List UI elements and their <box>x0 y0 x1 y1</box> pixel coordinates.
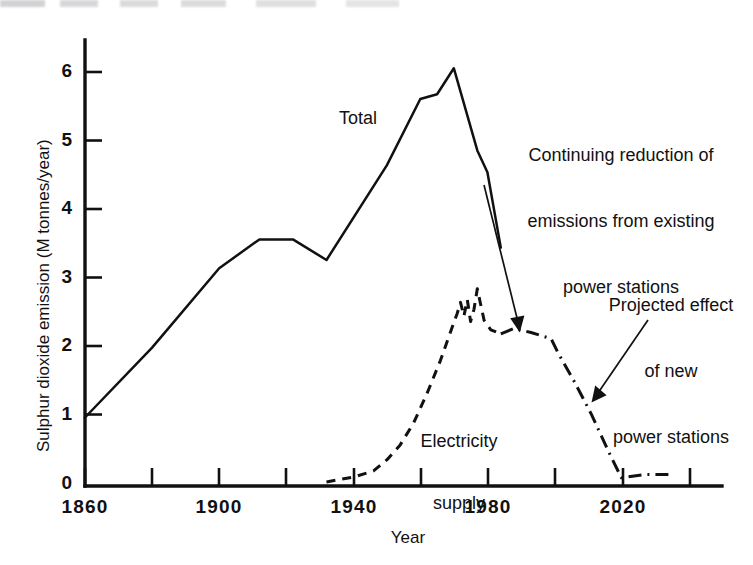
annotation-projected-effect-line1: Projected effect <box>592 295 750 317</box>
y-tick-label-6: 6 <box>46 60 72 82</box>
chart-figure: 6 5 4 3 2 1 0 1860 1900 1940 1980 2020 S… <box>0 0 753 565</box>
series-label-electricity-line2: supply <box>399 493 519 514</box>
x-tick-label-2020: 2020 <box>578 496 668 518</box>
annotation-projected-effect-line2: of new <box>592 361 750 383</box>
annotation-continuing-reduction-line2: emissions from existing <box>497 211 745 233</box>
series-label-electricity-supply: Electricity supply <box>399 389 519 556</box>
y-axis-title: Sulphur dioxide emission (M tonnes/year) <box>34 139 54 452</box>
series-label-electricity-line1: Electricity <box>399 431 519 452</box>
x-tick-label-1900: 1900 <box>174 496 264 518</box>
annotation-projected-effect-line3: power stations <box>592 427 750 449</box>
x-tick-label-1860: 1860 <box>40 496 130 518</box>
y-tick-label-0: 0 <box>46 472 72 494</box>
annotation-projected-effect: Projected effect of new power stations <box>592 251 750 492</box>
annotation-continuing-reduction-line1: Continuing reduction of <box>497 145 745 167</box>
x-tick-label-1940: 1940 <box>309 496 399 518</box>
y-axis-ticks <box>85 72 102 415</box>
series-line-total <box>85 68 501 417</box>
series-label-total: Total <box>339 108 377 129</box>
